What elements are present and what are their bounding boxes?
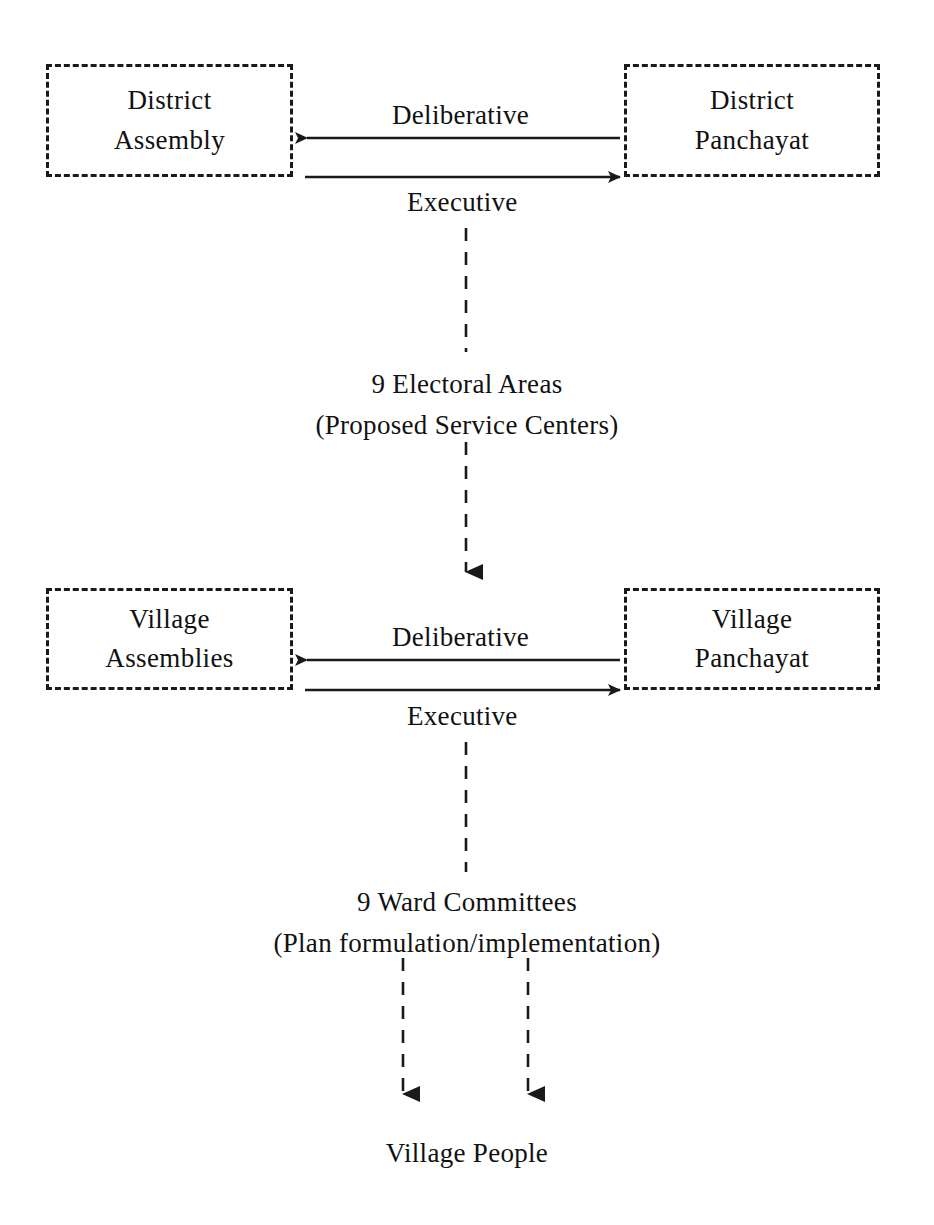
node-district-assembly[interactable]: District Assembly (46, 64, 293, 177)
text-village-people-line-1: Village People (0, 1133, 934, 1174)
node-district-assembly-line-2: Assembly (114, 121, 225, 160)
node-district-panchayat[interactable]: District Panchayat (624, 64, 880, 177)
edge-label-deliberative-top: Deliberative (392, 100, 529, 131)
text-ward-committees-line-2: (Plan formulation/implementation) (0, 923, 934, 964)
edge-label-executive-top: Executive (407, 187, 518, 218)
edge-label-executive-bottom: Executive (407, 701, 518, 732)
text-village-people: Village People (0, 1133, 934, 1174)
text-ward-committees: 9 Ward Committees (Plan formulation/impl… (0, 882, 934, 963)
node-village-assemblies-line-2: Assemblies (105, 639, 234, 678)
text-electoral-areas-line-1: 9 Electoral Areas (0, 364, 934, 405)
diagram-canvas: District Assembly District Panchayat Vil… (0, 0, 934, 1225)
text-electoral-areas-line-2: (Proposed Service Centers) (0, 405, 934, 446)
node-district-assembly-line-1: District (127, 81, 211, 120)
text-electoral-areas: 9 Electoral Areas (Proposed Service Cent… (0, 364, 934, 445)
node-village-panchayat-line-1: Village (712, 600, 793, 639)
node-village-panchayat-line-2: Panchayat (695, 639, 810, 678)
edge-label-deliberative-bottom: Deliberative (392, 622, 529, 653)
node-village-assemblies[interactable]: Village Assemblies (46, 588, 293, 690)
node-district-panchayat-line-1: District (710, 81, 794, 120)
node-village-assemblies-line-1: Village (129, 600, 210, 639)
text-ward-committees-line-1: 9 Ward Committees (0, 882, 934, 923)
node-district-panchayat-line-2: Panchayat (695, 121, 810, 160)
node-village-panchayat[interactable]: Village Panchayat (624, 588, 880, 690)
